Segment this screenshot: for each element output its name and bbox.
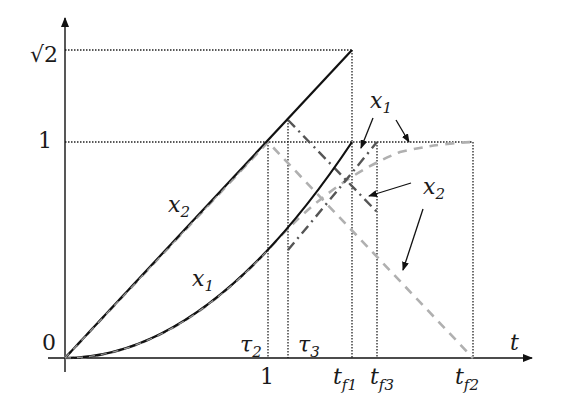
x-tick-tf1: tf1 bbox=[333, 364, 357, 394]
x1-arrow-left bbox=[361, 118, 373, 148]
y-tick-sqrt2: √2 bbox=[30, 42, 58, 67]
x1-overlay-dashed bbox=[65, 250, 268, 358]
curve-labels: x2 x1 x1 x2 bbox=[168, 88, 445, 295]
x-tick-tf3: tf3 bbox=[370, 364, 394, 394]
y-tick-0: 0 bbox=[42, 330, 56, 355]
annotation-arrows bbox=[361, 118, 423, 270]
x-tick-tf2: tf2 bbox=[455, 364, 479, 394]
label-x1-right: x1 bbox=[370, 88, 392, 117]
x-tick-tau3: τ3 bbox=[298, 332, 320, 361]
y-tick-1: 1 bbox=[38, 128, 52, 153]
x1-dashdot-curve bbox=[288, 142, 377, 250]
label-x2-right: x2 bbox=[423, 174, 445, 203]
x-axis-label: t bbox=[510, 330, 519, 355]
x2-arrow-lower bbox=[403, 209, 423, 270]
label-x1-left: x1 bbox=[192, 266, 214, 295]
x2-arrow-upper bbox=[369, 183, 411, 196]
dash-dot-curves bbox=[288, 120, 377, 250]
x1-arrow-right bbox=[396, 120, 409, 142]
x-tick-1: 1 bbox=[260, 364, 274, 389]
guide-lines bbox=[65, 50, 473, 358]
x-tick-labels-below: 1 tf1 tf3 tf2 bbox=[260, 364, 479, 394]
x-tick-tau2: τ2 bbox=[240, 332, 262, 361]
label-x2-left: x2 bbox=[168, 192, 190, 221]
trajectory-diagram: √2 1 0 t 1 tf1 tf3 tf2 τ2 τ3 x2 x1 x1 x2 bbox=[0, 0, 561, 408]
y-tick-labels: √2 1 0 bbox=[30, 42, 58, 355]
x-tick-labels-above: τ2 τ3 bbox=[240, 332, 320, 361]
x1-solid-curve bbox=[65, 142, 352, 358]
solid-curves bbox=[65, 50, 352, 358]
